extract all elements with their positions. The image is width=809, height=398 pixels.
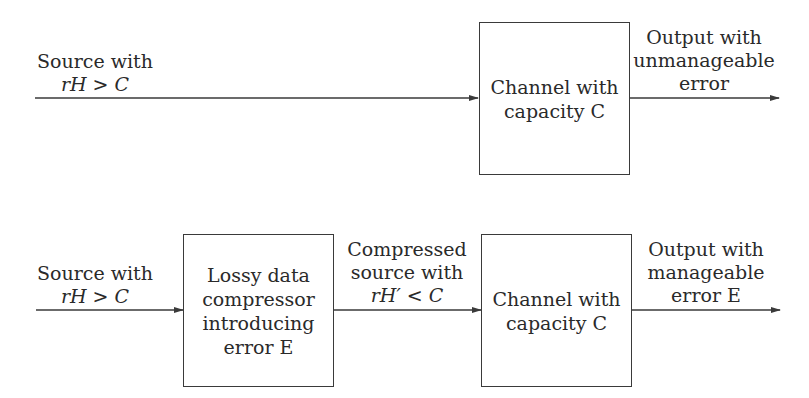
label-line: Output with xyxy=(630,26,778,49)
label-line: error xyxy=(630,72,778,95)
top-input-label: Source with rH > C xyxy=(30,50,160,96)
box-line: error E xyxy=(224,335,294,359)
label-line: source with xyxy=(334,261,480,284)
box-line: Lossy data xyxy=(207,263,310,287)
label-line: unmanageable xyxy=(630,49,778,72)
bottom-output-label: Output with manageable error E xyxy=(632,238,780,307)
label-math: rH > C xyxy=(30,73,160,96)
box-line: compressor xyxy=(202,287,315,311)
bottom-channel-box: Channel with capacity C xyxy=(481,234,632,387)
label-line: Output with xyxy=(632,238,780,261)
lossy-compressor-box: Lossy data compressor introducing error … xyxy=(183,234,334,387)
bottom-input-label: Source with rH > C xyxy=(30,262,160,308)
box-line: capacity C xyxy=(506,311,607,335)
label-line: Source with xyxy=(30,50,160,73)
label-line: Compressed xyxy=(334,238,480,261)
label-line: manageable xyxy=(632,261,780,284)
box-line: Channel with xyxy=(490,75,618,99)
label-math: rH′ < C xyxy=(334,284,480,307)
box-line: Channel with xyxy=(492,287,620,311)
compressed-source-label: Compressed source with rH′ < C xyxy=(334,238,480,307)
label-math: rH > C xyxy=(30,285,160,308)
top-channel-box: Channel with capacity C xyxy=(479,22,630,175)
label-line: error E xyxy=(632,284,780,307)
top-output-label: Output with unmanageable error xyxy=(630,26,778,95)
box-line: capacity C xyxy=(504,99,605,123)
box-line: introducing xyxy=(203,311,315,335)
label-line: Source with xyxy=(30,262,160,285)
